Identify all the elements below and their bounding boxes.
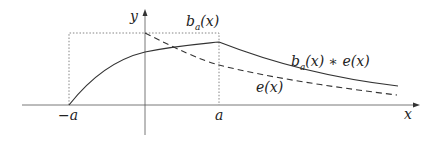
conv-label-arg: (x) ∗ e(x) xyxy=(305,53,369,69)
tick-neg-a: −a xyxy=(58,108,78,122)
convolution-diagram: y x −a a ba(x) ba(x) ∗ e(x) e(x) xyxy=(0,0,433,141)
conv-label-base: b xyxy=(291,53,300,69)
box-label-base: b xyxy=(186,13,195,29)
exponential-label: e(x) xyxy=(256,80,283,94)
tick-pos-a: a xyxy=(215,108,223,122)
box-label-arg: (x) xyxy=(200,13,219,29)
y-axis-label: y xyxy=(130,9,138,23)
x-axis-label: x xyxy=(404,107,412,121)
box-function-label: ba(x) xyxy=(186,14,219,32)
y-axis-arrow-icon xyxy=(143,9,148,16)
x-axis-arrow-icon xyxy=(413,103,420,108)
convolution-curve xyxy=(69,42,398,105)
convolution-label: ba(x) ∗ e(x) xyxy=(291,54,370,72)
